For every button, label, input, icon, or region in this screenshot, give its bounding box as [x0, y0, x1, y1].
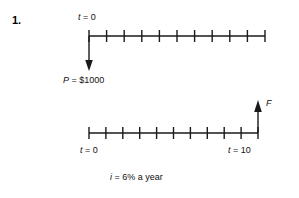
label-future-value: F [266, 98, 272, 108]
label-t-zero-top: t = 0 [78, 12, 96, 22]
label-interest-rate: i = 6% a year [110, 172, 163, 182]
future-value-arrow-head [254, 100, 262, 112]
future-value-arrow [254, 100, 262, 133]
present-value-arrow [85, 36, 93, 71]
label-t-ten-bottom: t = 10 [228, 145, 251, 155]
future-worth-timeline [89, 127, 258, 139]
present-worth-timeline [89, 30, 265, 42]
label-present-value: P = $1000 [63, 75, 104, 85]
diagram-canvas [0, 0, 299, 198]
label-t-zero-bottom: t = 0 [80, 145, 98, 155]
cash-flow-diagram-page: 1. [0, 0, 299, 198]
present-value-arrow-head [85, 60, 93, 71]
